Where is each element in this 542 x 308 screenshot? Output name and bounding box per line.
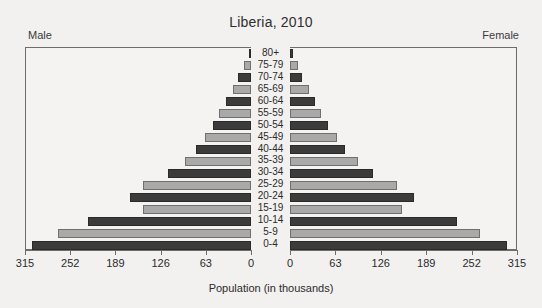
x-axis-title: Population (in thousands) xyxy=(0,282,542,294)
bar-male-10-14 xyxy=(88,217,251,226)
age-label-65-69: 65-69 xyxy=(251,84,290,94)
tick-label-male-252: 252 xyxy=(61,257,79,269)
tick-label-female-0: 0 xyxy=(287,257,293,269)
tick-label-male-189: 189 xyxy=(106,257,124,269)
tick-male-63 xyxy=(206,250,207,255)
age-group-axis: 80+75-7970-7465-6960-6455-5950-5445-4940… xyxy=(251,47,290,250)
bar-male-0-4 xyxy=(32,241,251,250)
bar-male-75-79 xyxy=(244,61,251,70)
male-bars-group xyxy=(26,48,251,249)
bar-male-5-9 xyxy=(58,229,251,238)
tick-label-male-126: 126 xyxy=(151,257,169,269)
female-bars-group xyxy=(290,48,516,249)
bar-female-55-59 xyxy=(290,109,321,118)
tick-label-female-126: 126 xyxy=(372,257,390,269)
age-label-80+: 80+ xyxy=(251,48,290,58)
bar-male-65-69 xyxy=(233,85,251,94)
tick-female-126 xyxy=(381,250,382,255)
bar-male-30-34 xyxy=(168,169,251,178)
age-label-0-4: 0-4 xyxy=(251,239,290,249)
age-label-20-24: 20-24 xyxy=(251,191,290,201)
male-x-axis-line xyxy=(25,250,251,251)
bar-female-15-19 xyxy=(290,205,402,214)
bar-female-35-39 xyxy=(290,157,358,166)
tick-female-315 xyxy=(517,250,518,255)
tick-label-male-315: 315 xyxy=(16,257,34,269)
age-label-40-44: 40-44 xyxy=(251,144,290,154)
female-plot-panel xyxy=(290,47,517,250)
bar-female-10-14 xyxy=(290,217,457,226)
bar-female-40-44 xyxy=(290,145,345,154)
bar-male-40-44 xyxy=(196,145,251,154)
male-plot-panel xyxy=(25,47,251,250)
age-label-60-64: 60-64 xyxy=(251,96,290,106)
bar-female-30-34 xyxy=(290,169,373,178)
bar-female-50-54 xyxy=(290,121,328,130)
bar-male-15-19 xyxy=(143,205,251,214)
tick-female-63 xyxy=(335,250,336,255)
tick-label-female-252: 252 xyxy=(462,257,480,269)
tick-male-315 xyxy=(25,250,26,255)
tick-label-male-63: 63 xyxy=(200,257,212,269)
bar-female-5-9 xyxy=(290,229,480,238)
age-label-70-74: 70-74 xyxy=(251,72,290,82)
bar-female-70-74 xyxy=(290,73,302,82)
tick-female-0 xyxy=(290,250,291,255)
chart-title: Liberia, 2010 xyxy=(0,14,542,30)
female-x-axis-line xyxy=(290,250,517,251)
tick-male-189 xyxy=(115,250,116,255)
age-label-15-19: 15-19 xyxy=(251,203,290,213)
bar-female-80+ xyxy=(290,49,293,58)
age-label-10-14: 10-14 xyxy=(251,215,290,225)
tick-label-female-189: 189 xyxy=(417,257,435,269)
bar-female-45-49 xyxy=(290,133,337,142)
bar-female-75-79 xyxy=(290,61,298,70)
bar-male-60-64 xyxy=(226,97,251,106)
tick-label-female-63: 63 xyxy=(329,257,341,269)
tick-female-252 xyxy=(472,250,473,255)
bar-male-50-54 xyxy=(213,121,251,130)
bar-male-55-59 xyxy=(219,109,251,118)
bar-female-65-69 xyxy=(290,85,309,94)
age-label-5-9: 5-9 xyxy=(251,227,290,237)
bar-male-20-24 xyxy=(130,193,251,202)
bar-male-35-39 xyxy=(185,157,251,166)
age-label-75-79: 75-79 xyxy=(251,60,290,70)
age-label-50-54: 50-54 xyxy=(251,120,290,130)
bar-male-70-74 xyxy=(238,73,251,82)
bar-female-0-4 xyxy=(290,241,507,250)
age-label-30-34: 30-34 xyxy=(251,167,290,177)
tick-label-female-315: 315 xyxy=(508,257,526,269)
tick-female-189 xyxy=(426,250,427,255)
male-side-label: Male xyxy=(28,29,52,41)
tick-label-male-0: 0 xyxy=(248,257,254,269)
tick-male-252 xyxy=(70,250,71,255)
population-pyramid-chart: Liberia, 2010 Male Female 80+75-7970-746… xyxy=(0,0,542,308)
bar-male-25-29 xyxy=(143,181,251,190)
bar-male-45-49 xyxy=(205,133,251,142)
tick-male-126 xyxy=(161,250,162,255)
bar-female-25-29 xyxy=(290,181,397,190)
age-label-55-59: 55-59 xyxy=(251,108,290,118)
bar-female-60-64 xyxy=(290,97,315,106)
age-label-35-39: 35-39 xyxy=(251,155,290,165)
tick-male-0 xyxy=(251,250,252,255)
age-label-45-49: 45-49 xyxy=(251,132,290,142)
age-label-25-29: 25-29 xyxy=(251,179,290,189)
female-side-label: Female xyxy=(482,29,519,41)
bar-female-20-24 xyxy=(290,193,414,202)
